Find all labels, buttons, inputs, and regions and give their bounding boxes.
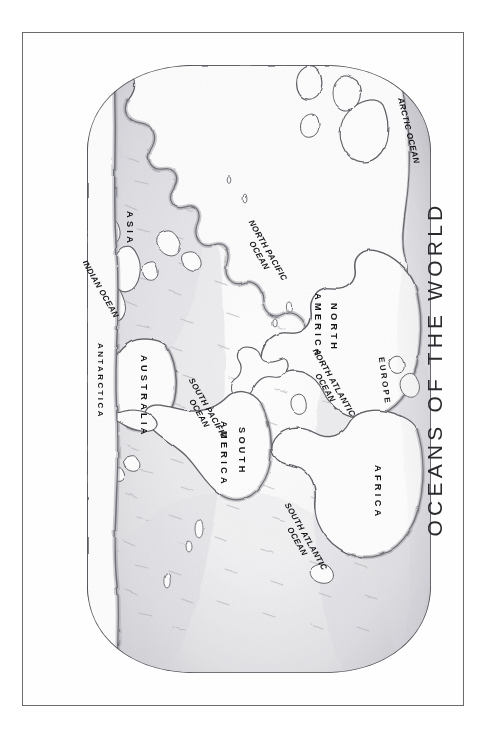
title-block: OCEANS OF THE WORLD <box>407 69 463 669</box>
world-map-drawing <box>83 61 435 677</box>
world-map-illustration: ASIA EUROPE AFRICA NORTH AMERICA SOUTH A… <box>83 61 435 677</box>
illustration-frame: ASIA EUROPE AFRICA NORTH AMERICA SOUTH A… <box>22 32 464 706</box>
page-title: OCEANS OF THE WORLD <box>423 202 447 537</box>
map-rotation-layer: ASIA EUROPE AFRICA NORTH AMERICA SOUTH A… <box>83 61 435 677</box>
page-canvas: ASIA EUROPE AFRICA NORTH AMERICA SOUTH A… <box>0 0 498 739</box>
